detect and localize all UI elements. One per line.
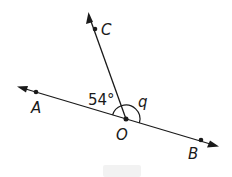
label-b: B <box>188 145 198 163</box>
point-b <box>199 138 204 143</box>
angle-diagram: C A O B 54° q <box>0 0 232 177</box>
arrowhead-up-icon <box>86 12 93 24</box>
arrowhead-left-icon <box>17 86 28 93</box>
label-angle-q: q <box>138 93 148 111</box>
point-a <box>34 90 39 95</box>
arrowhead-right-icon <box>207 141 219 148</box>
point-c <box>93 27 98 32</box>
label-angle-54: 54° <box>88 91 115 109</box>
footer-placeholder-box <box>103 165 141 177</box>
label-c: C <box>101 21 112 39</box>
point-o <box>124 117 129 122</box>
label-o: O <box>116 126 128 144</box>
label-a: A <box>30 99 41 117</box>
